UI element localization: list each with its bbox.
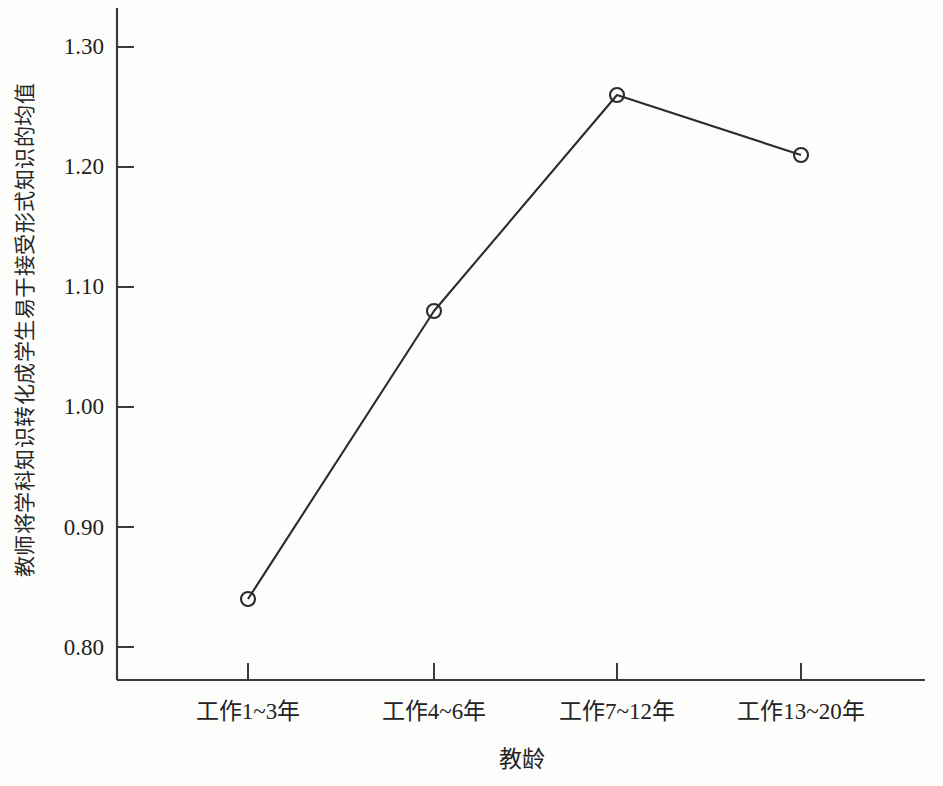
y-axis-ticks [117,47,134,647]
chart-page: 教师将学科知识转化成学生易于接受形式知识的均值 1.30 1.20 1.10 1… [0,0,943,786]
line-chart-plot [0,0,943,786]
data-series-line [248,95,801,599]
x-axis-ticks [248,663,801,680]
data-point-markers [241,88,808,606]
